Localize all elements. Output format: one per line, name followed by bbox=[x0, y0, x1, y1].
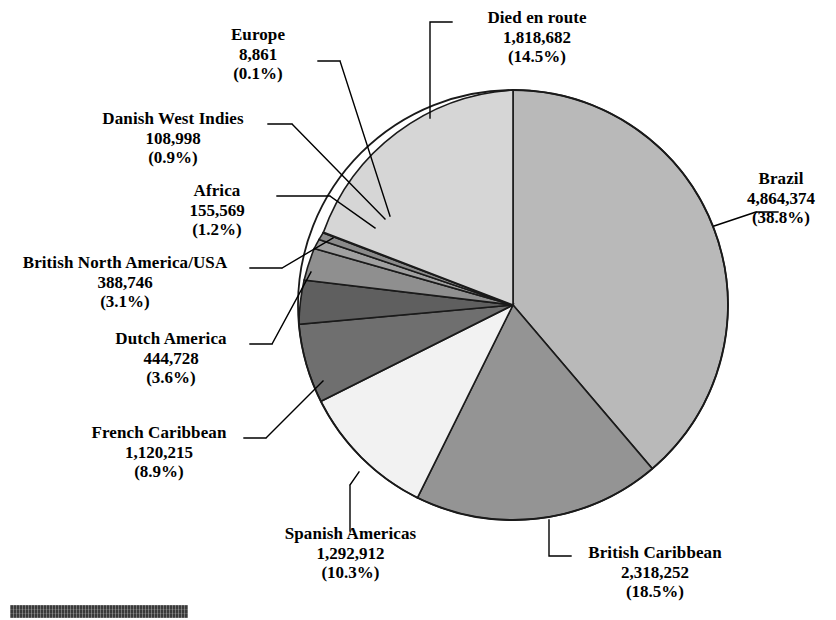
label-british-north-america-usa: British North America/USA 388,746 (3.1%) bbox=[0, 253, 250, 312]
label-bna-usa-value: 388,746 bbox=[0, 273, 250, 293]
leader-british-caribbean bbox=[549, 520, 571, 556]
label-died-en-route-name: Died en route bbox=[452, 8, 622, 28]
label-french-caribbean: French Caribbean 1,120,215 (8.9%) bbox=[74, 423, 244, 482]
label-danish-west-indies: Danish West Indies 108,998 (0.9%) bbox=[78, 109, 268, 168]
label-europe: Europe 8,861 (0.1%) bbox=[198, 25, 318, 84]
label-europe-value: 8,861 bbox=[198, 45, 318, 65]
label-africa-name: Africa bbox=[157, 181, 277, 201]
label-british-caribbean-pct: (18.5%) bbox=[571, 582, 739, 602]
label-british-caribbean: British Caribbean 2,318,252 (18.5%) bbox=[571, 543, 739, 602]
label-dutch-america-value: 444,728 bbox=[92, 349, 250, 369]
pie-slices bbox=[298, 90, 728, 520]
label-brazil-name: Brazil bbox=[726, 169, 836, 189]
label-dutch-america-pct: (3.6%) bbox=[92, 368, 250, 388]
label-africa: Africa 155,569 (1.2%) bbox=[157, 181, 277, 240]
label-danish-west-indies-name: Danish West Indies bbox=[78, 109, 268, 129]
label-french-caribbean-name: French Caribbean bbox=[74, 423, 244, 443]
label-spanish-americas-pct: (10.3%) bbox=[263, 563, 438, 583]
label-spanish-americas-name: Spanish Americas bbox=[263, 524, 438, 544]
leader-french-caribbean bbox=[244, 381, 323, 438]
label-bna-usa-pct: (3.1%) bbox=[0, 292, 250, 312]
label-brazil-pct: (38.8%) bbox=[726, 208, 836, 228]
label-spanish-americas: Spanish Americas 1,292,912 (10.3%) bbox=[263, 524, 438, 583]
label-africa-value: 155,569 bbox=[157, 201, 277, 221]
label-french-caribbean-pct: (8.9%) bbox=[74, 462, 244, 482]
label-danish-west-indies-pct: (0.9%) bbox=[78, 148, 268, 168]
label-danish-west-indies-value: 108,998 bbox=[78, 129, 268, 149]
label-dutch-america-name: Dutch America bbox=[92, 329, 250, 349]
label-died-en-route: Died en route 1,818,682 (14.5%) bbox=[452, 8, 622, 67]
label-french-caribbean-value: 1,120,215 bbox=[74, 443, 244, 463]
label-british-caribbean-value: 2,318,252 bbox=[571, 563, 739, 583]
label-died-en-route-value: 1,818,682 bbox=[452, 28, 622, 48]
label-brazil: Brazil 4,864,374 (38.8%) bbox=[726, 169, 836, 228]
label-dutch-america: Dutch America 444,728 (3.6%) bbox=[92, 329, 250, 388]
label-died-en-route-pct: (14.5%) bbox=[452, 47, 622, 67]
pie-chart-figure: Died en route 1,818,682 (14.5%) Europe 8… bbox=[0, 0, 836, 620]
leader-spanish-americas bbox=[350, 472, 359, 531]
label-africa-pct: (1.2%) bbox=[157, 220, 277, 240]
scan-artifact-bar bbox=[10, 605, 188, 618]
label-bna-usa-name: British North America/USA bbox=[0, 253, 250, 273]
label-brazil-value: 4,864,374 bbox=[726, 189, 836, 209]
label-europe-name: Europe bbox=[198, 25, 318, 45]
label-british-caribbean-name: British Caribbean bbox=[571, 543, 739, 563]
label-europe-pct: (0.1%) bbox=[198, 64, 318, 84]
label-spanish-americas-value: 1,292,912 bbox=[263, 544, 438, 564]
